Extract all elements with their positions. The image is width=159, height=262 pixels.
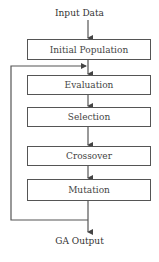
step-mutation: Mutation [27,179,151,201]
ga-output-label: GA Output [0,236,159,246]
step-label: Evaluation [65,80,114,90]
step-label: Mutation [68,185,110,195]
step-initial-population: Initial Population [27,39,151,60]
step-crossover: Crossover [27,146,151,166]
input-data-label: Input Data [0,8,159,18]
step-selection: Selection [27,107,151,127]
step-label: Crossover [66,151,112,161]
step-evaluation: Evaluation [27,75,151,95]
step-label: Selection [68,112,110,122]
step-label: Initial Population [50,45,128,55]
